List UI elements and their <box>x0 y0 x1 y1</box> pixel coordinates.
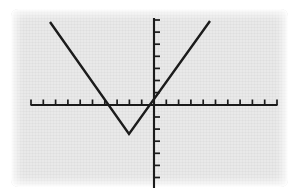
panel-texture <box>11 9 288 187</box>
panel-vignette <box>11 9 288 187</box>
figure-root <box>0 0 299 196</box>
plot-panel <box>11 9 288 187</box>
figure-frame <box>0 0 299 196</box>
